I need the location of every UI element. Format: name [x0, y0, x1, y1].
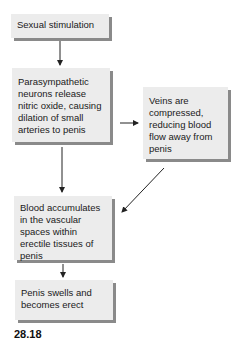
- arrow-n3-n4: [122, 168, 164, 212]
- figure-label: 28.18: [14, 328, 42, 340]
